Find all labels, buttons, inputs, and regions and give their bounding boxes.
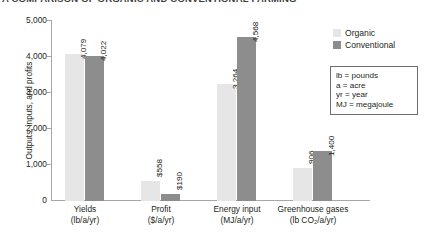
bar-conventional-greenhouse-gases[interactable]: 1,400 xyxy=(313,151,332,201)
key-line: lb = pounds xyxy=(336,71,412,81)
bar-group: $558$190 xyxy=(141,20,180,201)
bar-conventional-profit[interactable]: $190 xyxy=(161,194,180,201)
bar-value-label: 4,022 xyxy=(99,41,108,61)
bar-organic-greenhouse-gases[interactable]: 906 xyxy=(293,168,312,201)
bar-chart: Outputs, inputs, and profits 01,0002,000… xyxy=(0,0,426,245)
bar-group: 9061,400 xyxy=(293,20,332,201)
bar-conventional-yields[interactable]: 4,022 xyxy=(85,56,104,201)
y-axis-tick-label: 4,000 xyxy=(5,51,47,61)
bar-value-label: 4,568 xyxy=(251,21,260,41)
bar-organic-energy-input[interactable]: 3,264 xyxy=(217,84,236,202)
legend-swatch-icon xyxy=(333,41,341,49)
y-axis-tick-label: 3,000 xyxy=(5,87,47,97)
category-label-greenhouse-gases: Greenhouse gases(lb CO₂/a/yr) xyxy=(253,204,373,225)
bar-organic-yields[interactable]: 4,079 xyxy=(65,54,84,201)
bar-group: 3,2644,568 xyxy=(217,20,256,201)
abbreviation-key-box: lb = poundsa = acreyr = yearMJ = megajou… xyxy=(330,66,418,115)
y-axis-tick-mark xyxy=(47,56,51,57)
y-axis-tick-label: 1,000 xyxy=(5,159,47,169)
category-name: Profit xyxy=(151,204,171,214)
chart-legend: OrganicConventional xyxy=(333,27,395,51)
bar-value-label: $190 xyxy=(175,172,184,190)
y-axis-tick-mark xyxy=(47,20,51,21)
bar-value-label: 1,400 xyxy=(327,135,336,155)
bar-group: 4,0794,022 xyxy=(65,20,104,201)
y-axis-tick-mark xyxy=(47,128,51,129)
bar-conventional-energy-input[interactable]: 4,568 xyxy=(237,37,256,201)
category-name: Greenhouse gases xyxy=(278,204,349,214)
legend-item-organic[interactable]: Organic xyxy=(333,27,395,38)
legend-swatch-icon xyxy=(333,29,341,37)
legend-label: Organic xyxy=(345,28,375,38)
plot-area: 4,0794,022$558$1903,2644,5689061,400 xyxy=(51,20,370,201)
key-line: MJ = megajoule xyxy=(336,100,412,110)
y-axis-tick-label: 2,000 xyxy=(5,123,47,133)
category-unit: (lb CO₂/a/yr) xyxy=(253,215,373,226)
y-axis-tick-mark xyxy=(47,92,51,93)
legend-item-conventional[interactable]: Conventional xyxy=(333,39,395,50)
category-name: Yields xyxy=(74,204,97,214)
key-line: a = acre xyxy=(336,81,412,91)
bar-organic-profit[interactable]: $558 xyxy=(141,181,160,201)
y-axis-tick-mark xyxy=(47,164,51,165)
key-line: yr = year xyxy=(336,90,412,100)
bar-value-label: $558 xyxy=(155,159,164,177)
legend-label: Conventional xyxy=(345,40,395,50)
y-axis-tick-label: 5,000 xyxy=(5,15,47,25)
